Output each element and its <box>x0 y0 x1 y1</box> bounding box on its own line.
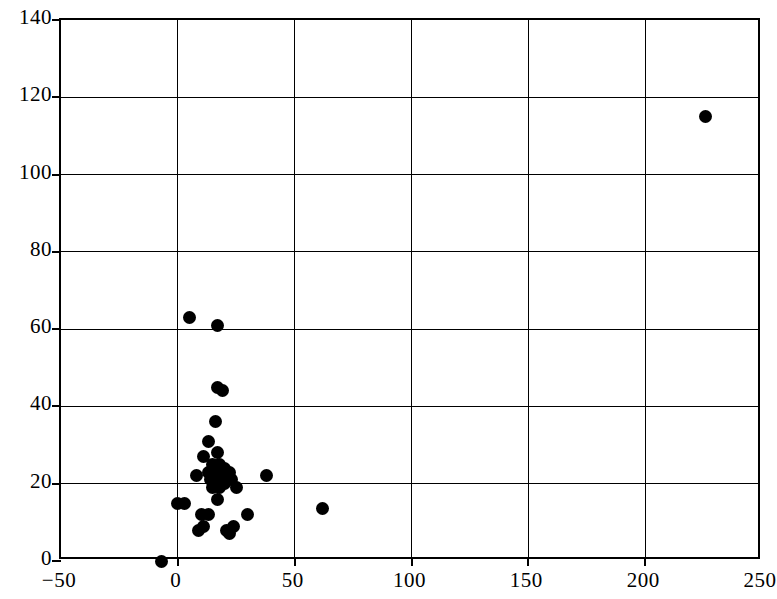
y-axis-tick-label: 40 <box>2 393 52 414</box>
y-axis-tick-label: 100 <box>2 162 52 183</box>
x-axis-tick-mark <box>411 557 413 566</box>
data-point <box>202 435 215 448</box>
x-axis-tick-label: 150 <box>481 570 571 591</box>
data-points-layer <box>61 20 758 557</box>
y-axis-tick-mark <box>52 96 61 98</box>
data-point <box>230 481 243 494</box>
y-axis-tick-mark <box>52 560 61 562</box>
y-axis-tick-label: 120 <box>2 84 52 105</box>
data-point <box>223 527 236 540</box>
x-axis-tick-label: 250 <box>715 570 777 591</box>
y-axis-tick-mark <box>52 251 61 253</box>
y-axis-tick-label: 60 <box>2 316 52 337</box>
plot-area <box>59 18 760 559</box>
data-point <box>316 502 329 515</box>
data-point <box>209 415 222 428</box>
data-point <box>260 469 273 482</box>
data-point <box>155 555 168 568</box>
y-axis-tick-label: 140 <box>2 7 52 28</box>
data-point <box>183 311 196 324</box>
y-axis-tick-label: 0 <box>2 548 52 569</box>
data-point <box>699 110 712 123</box>
x-axis-tick-label: 200 <box>598 570 688 591</box>
y-axis-tick-mark <box>52 328 61 330</box>
data-point <box>197 520 210 533</box>
y-axis-tick-mark <box>52 174 61 176</box>
y-axis-tick-label: 20 <box>2 471 52 492</box>
y-axis-tick-mark <box>52 405 61 407</box>
x-axis-tick-mark <box>177 557 179 566</box>
x-axis-tick-mark <box>527 557 529 566</box>
y-axis-tick-label: 80 <box>2 239 52 260</box>
x-axis-tick-mark <box>644 557 646 566</box>
y-axis-tick-mark <box>52 483 61 485</box>
scatter-plot-figure: 020406080100120140 −50050100150200250 <box>0 0 777 599</box>
data-point <box>211 319 224 332</box>
data-point <box>178 497 191 510</box>
x-axis-tick-label: 50 <box>248 570 338 591</box>
data-point <box>216 384 229 397</box>
data-point <box>241 508 254 521</box>
x-axis-tick-label: 100 <box>365 570 455 591</box>
x-axis-tick-label: 0 <box>131 570 221 591</box>
y-axis-tick-mark <box>52 19 61 21</box>
data-point <box>211 493 224 506</box>
y-axis-tick-labels: 020406080100120140 <box>0 0 52 599</box>
x-axis-tick-label: −50 <box>14 570 104 591</box>
x-axis-tick-labels: −50050100150200250 <box>0 570 777 598</box>
x-axis-tick-mark <box>294 557 296 566</box>
